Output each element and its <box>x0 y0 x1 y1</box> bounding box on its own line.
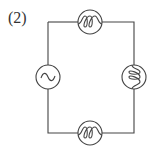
wire-top-right <box>102 22 134 65</box>
lamp-icon <box>78 121 102 145</box>
ac-source-icon <box>36 65 60 89</box>
circuit-diagram <box>0 0 156 153</box>
wire-bottom-left <box>48 89 78 133</box>
lamp-icon <box>78 10 102 34</box>
wire-right-bottom <box>102 89 134 133</box>
lamp-icon <box>122 65 146 89</box>
